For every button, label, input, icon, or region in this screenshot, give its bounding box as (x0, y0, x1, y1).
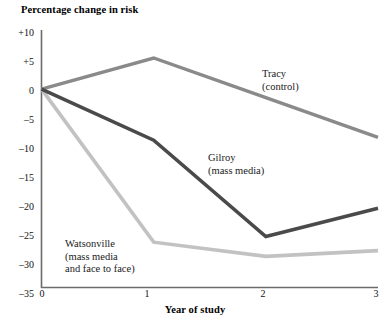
series-annotation-watsonville: Watsonville (mass media and face to face… (65, 238, 135, 276)
series-annotation-watsonville-line1: Watsonville (65, 238, 135, 251)
series-annotation-watsonville-line3: and face to face) (65, 263, 135, 276)
series-annotation-gilroy-line1: Gilroy (208, 152, 264, 165)
series-annotation-gilroy-line2: (mass media) (208, 165, 264, 178)
series-annotation-tracy-line1: Tracy (262, 68, 299, 81)
x-axis-title: Year of study (0, 304, 390, 315)
series-annotation-tracy: Tracy (control) (262, 68, 299, 93)
series-annotation-watsonville-line2: (mass media (65, 251, 135, 264)
plot-area (0, 0, 390, 326)
series-line-tracy (42, 58, 379, 137)
chart-figure: Percentage change in risk +10 +5 0 –5 –1… (0, 0, 390, 326)
series-annotation-gilroy: Gilroy (mass media) (208, 152, 264, 177)
series-annotation-tracy-line2: (control) (262, 81, 299, 94)
